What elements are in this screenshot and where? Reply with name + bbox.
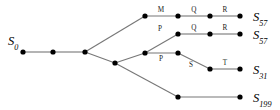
branch2-node-2 [175,31,180,36]
state-label-s0: S0 [8,34,18,52]
branch1-terminal [237,13,242,18]
edge-label: P [158,25,162,33]
edge-label: Q [191,6,197,14]
edge-label: R [223,6,228,14]
branch4-node-1 [175,94,180,99]
edge-label: P [159,55,163,63]
branch3-node-3 [207,66,212,71]
branch2-terminal [237,31,242,36]
branch2-node-1 [142,50,147,55]
root-node [20,49,25,54]
state-label-s31: S31 [253,63,267,81]
tree-edge [145,34,178,53]
state-labels-group: S57S57S31S199 [253,10,272,109]
branch3-node-2 [175,50,180,55]
branch4-terminal [237,94,242,99]
edge-label: M [158,6,165,14]
edge-label: R [223,24,228,32]
edge-label: T [223,59,228,67]
state-label-s199: S199 [253,91,272,109]
branch-node-lower [112,60,117,65]
tree-edge [85,16,145,52]
branch1-node-1 [142,13,147,18]
edge-label: S [189,61,193,69]
branch-node-main [82,49,87,54]
chain-node-1 [50,49,55,54]
tree-edge [85,52,115,63]
branch2-node-3 [207,31,212,36]
branch1-node-3 [207,13,212,18]
edge-label: Q [191,24,197,32]
tree-edge [178,53,210,69]
tree-edge [115,53,145,63]
state-label-s57-top: S57 [253,10,268,28]
state-label-s57-second: S57 [253,28,268,46]
tree-edge [115,63,178,97]
branch3-terminal [237,66,242,71]
branch1-node-2 [175,13,180,18]
edges-group [23,16,240,97]
nodes-group [20,13,242,99]
tree-diagram: MQRPQRPST S57S57S31S199 S0 [0,0,280,110]
tree-svg-canvas: MQRPQRPST S57S57S31S199 S0 [0,0,280,110]
